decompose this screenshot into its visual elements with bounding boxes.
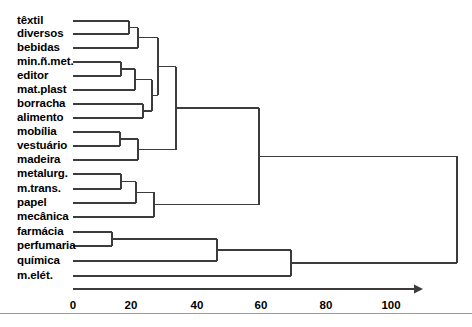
axis-arrowhead: [414, 285, 423, 294]
leaf-label-alimento: alimento: [17, 112, 64, 123]
leaf-label-textil: têxtil: [17, 15, 43, 26]
leaf-label-diversos: diversos: [17, 28, 64, 39]
axis-tick-80: 80: [320, 299, 333, 311]
leaf-label-quimica: química: [17, 255, 60, 266]
axis-tick-20: 20: [125, 299, 138, 311]
leaf-label-m-elet: m.elét.: [17, 270, 53, 281]
axis-tick-0: 0: [70, 299, 76, 311]
leaf-label-editor: editor: [17, 70, 48, 81]
leaf-label-m-trans: m.trans.: [17, 183, 61, 194]
bottom-separator: [0, 313, 472, 314]
axis-tick-40: 40: [191, 299, 204, 311]
axis-tick-100: 100: [381, 299, 400, 311]
leaf-label-metalurg: metalurg.: [17, 168, 68, 179]
leaf-label-bebidas: bebidas: [17, 42, 60, 53]
leaf-label-madeira: madeira: [17, 154, 60, 165]
leaf-label-borracha: borracha: [17, 98, 65, 109]
leaf-label-min-n-met: min.ñ.met.: [17, 56, 74, 67]
distance-axis: [73, 285, 423, 294]
leaf-label-mecanica: mecânica: [17, 211, 69, 222]
leaf-label-perfumaria: perfumaria: [17, 240, 75, 251]
axis-tick-60: 60: [255, 299, 268, 311]
dendrogram-links: [73, 21, 457, 276]
leaf-label-mobilia: mobília: [17, 126, 57, 137]
leaf-label-vestuario: vestuário: [17, 140, 67, 151]
dendrogram-figure: têxtil diversos bebidas min.ñ.met. edito…: [0, 0, 472, 327]
leaf-label-papel: papel: [17, 197, 47, 208]
leaf-label-farmacia: farmácia: [17, 226, 64, 237]
dendrogram-plot: [0, 0, 472, 327]
leaf-label-mat-plast: mat.plast: [17, 84, 67, 95]
